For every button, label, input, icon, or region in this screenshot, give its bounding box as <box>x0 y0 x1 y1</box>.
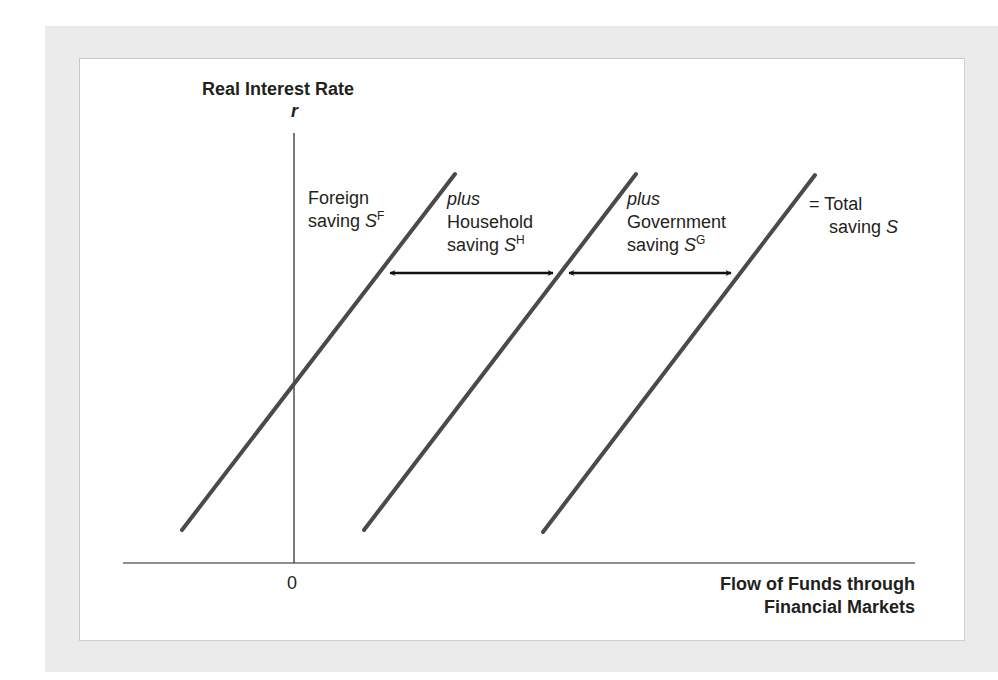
y-axis-title: Real Interest Rate <box>202 78 354 101</box>
household-line3: saving SH <box>447 234 533 257</box>
government-line2: Government <box>627 211 726 234</box>
foreign-line2: saving SF <box>308 210 384 233</box>
foreign-line1: Foreign <box>308 187 384 210</box>
total-line2: saving S <box>809 216 898 239</box>
government-line3: saving SG <box>627 234 726 257</box>
household-line2: Household <box>447 211 533 234</box>
y-axis-symbol: r <box>291 100 298 123</box>
x-axis-title: Flow of Funds through Financial Markets <box>720 573 915 619</box>
government-saving-label: plus Government saving SG <box>627 188 726 257</box>
total-line1: = Total <box>809 193 898 216</box>
household-saving-label: plus Household saving SH <box>447 188 533 257</box>
household-prefix: plus <box>447 188 533 211</box>
foreign-saving-label: Foreign saving SF <box>308 187 384 233</box>
origin-label: 0 <box>287 572 297 595</box>
x-axis-title-line1: Flow of Funds through <box>720 573 915 596</box>
total-saving-label: = Total saving S <box>809 193 898 239</box>
government-prefix: plus <box>627 188 726 211</box>
x-axis-title-line2: Financial Markets <box>720 596 915 619</box>
